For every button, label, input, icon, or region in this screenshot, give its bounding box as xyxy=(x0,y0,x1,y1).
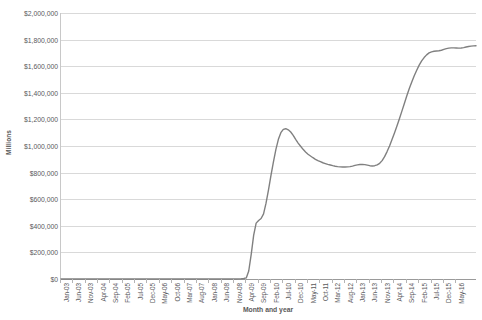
x-axis-tick-label: Mar-07 xyxy=(186,283,193,303)
y-axis-tick-label: $1,600,000 xyxy=(14,63,58,70)
x-axis-tick-label: Sep-14 xyxy=(408,283,415,303)
y-axis-tick-label: $200,000 xyxy=(14,249,58,256)
x-axis-tick-label: Feb-10 xyxy=(273,283,280,303)
x-axis-title: Month and year xyxy=(60,306,476,313)
x-axis-tick-label: Oct-06 xyxy=(174,283,181,302)
x-axis-tick-label: Jan-03 xyxy=(63,283,70,302)
x-axis-tick-label: Jun-08 xyxy=(223,283,230,302)
x-axis-tick-label: Jun-13 xyxy=(371,283,378,302)
x-axis-tick-label: Jul-05 xyxy=(137,283,144,300)
x-axis-tick-label: Dec-10 xyxy=(297,283,304,303)
y-axis-tick-label: $1,800,000 xyxy=(14,36,58,43)
x-axis-tick-label: Nov-13 xyxy=(384,283,391,303)
x-axis-tick-label: Jan-13 xyxy=(359,283,366,302)
y-axis-tick-label: $2,000,000 xyxy=(14,10,58,17)
x-axis-tick-label: Nov-03 xyxy=(87,283,94,303)
x-axis-tick-label: May-16 xyxy=(458,283,465,304)
y-axis-tick-label: $800,000 xyxy=(14,169,58,176)
x-axis-tick-label: Aug-07 xyxy=(198,283,205,303)
x-axis-tick-label: Sep-04 xyxy=(112,283,119,303)
x-axis-tick-label: Apr-04 xyxy=(100,283,107,302)
series-polyline xyxy=(61,46,476,279)
y-axis-tick-label: $1,000,000 xyxy=(14,143,58,150)
x-axis-tick-label: Feb-05 xyxy=(124,283,131,303)
x-axis-tick-label: Feb-15 xyxy=(421,283,428,303)
y-axis-title-label: Millions xyxy=(5,130,12,155)
y-axis-tick-label: $600,000 xyxy=(14,196,58,203)
x-axis-tick-label: Oct-11 xyxy=(322,283,329,301)
x-axis-tick-label: Aug-12 xyxy=(347,283,354,303)
x-axis-tick-label: Jun-03 xyxy=(75,283,82,302)
x-axis-tick-label: Dec-05 xyxy=(149,283,156,303)
x-axis-tick-label: Apr-09 xyxy=(248,283,255,302)
x-axis-tick-label: Jan-08 xyxy=(211,283,218,302)
x-axis-tick-label: Jul-10 xyxy=(285,283,292,300)
y-axis-tick-labels: $0$200,000$400,000$600,000$800,000$1,000… xyxy=(14,0,58,285)
y-axis-tick-label: $0 xyxy=(14,276,58,283)
x-axis-tick-label: May-11 xyxy=(310,283,317,303)
y-axis-tick-label: $1,400,000 xyxy=(14,89,58,96)
x-axis-tick-label: Apr-14 xyxy=(396,283,403,302)
x-axis-tick-label: Sep-09 xyxy=(260,283,267,303)
x-axis-tick-label: May-06 xyxy=(161,283,168,304)
series-line xyxy=(61,13,476,279)
y-axis-tick-label: $400,000 xyxy=(14,222,58,229)
plot-area xyxy=(60,13,476,280)
y-axis-tick-label: $1,200,000 xyxy=(14,116,58,123)
line-chart: Millions $0$200,000$400,000$600,000$800,… xyxy=(0,0,482,320)
x-axis-tick-label: Nov-08 xyxy=(236,283,243,303)
x-axis-tick-label: Dec-15 xyxy=(445,283,452,303)
x-axis-tick-label: Jul-15 xyxy=(433,283,440,300)
x-axis-tick-label: Mar-12 xyxy=(334,283,341,303)
